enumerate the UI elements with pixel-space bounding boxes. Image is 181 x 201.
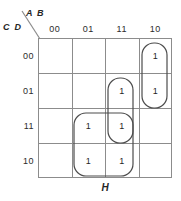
kmap-cell[interactable]: 1: [105, 73, 139, 108]
karnaugh-map: A B C D 00 01 11 10 00 01 11 10 1 1 1 1 …: [0, 0, 181, 201]
column-header-2: 11: [105, 24, 139, 34]
column-header-3: 10: [139, 24, 173, 34]
kmap-cell[interactable]: [38, 108, 72, 143]
kmap-cell[interactable]: [38, 143, 72, 178]
kmap-cell[interactable]: [72, 38, 106, 73]
kmap-cell[interactable]: 1: [105, 108, 139, 143]
kmap-grid: 1 1 1 1 1 1 1: [38, 38, 172, 178]
kmap-cell[interactable]: 1: [72, 143, 106, 178]
function-label: H: [38, 182, 172, 193]
kmap-cell[interactable]: [38, 73, 72, 108]
kmap-cell[interactable]: 1: [105, 143, 139, 178]
row-header-2: 11: [8, 121, 34, 131]
left-variable-label: C D: [3, 22, 22, 32]
row-header-0: 00: [8, 51, 34, 61]
column-header-1: 01: [72, 24, 106, 34]
kmap-cell[interactable]: 1: [139, 38, 173, 73]
row-header-3: 10: [8, 156, 34, 166]
top-variable-label: A B: [26, 8, 45, 18]
kmap-cell[interactable]: [72, 73, 106, 108]
row-header-1: 01: [8, 86, 34, 96]
column-header-0: 00: [38, 24, 72, 34]
kmap-cell[interactable]: 1: [139, 73, 173, 108]
kmap-cell[interactable]: 1: [72, 108, 106, 143]
kmap-cell[interactable]: [139, 143, 173, 178]
kmap-cell[interactable]: [38, 38, 72, 73]
kmap-cell[interactable]: [139, 108, 173, 143]
kmap-cell[interactable]: [105, 38, 139, 73]
